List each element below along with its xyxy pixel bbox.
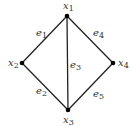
- edge-e4: [67, 16, 113, 63]
- vertex-label-x3: x3: [63, 114, 74, 126]
- edge-label-e1: e1: [36, 27, 47, 40]
- graph-canvas: e1e2e3e4e5x1x2x3x4: [0, 0, 133, 126]
- edge-e3: [67, 16, 68, 110]
- vertex-label-x4: x4: [118, 57, 129, 70]
- vertex-x2: [20, 61, 25, 66]
- vertex-x1: [65, 14, 70, 19]
- edge-label-e5: e5: [93, 88, 104, 101]
- vertex-label-subscript: 4: [124, 61, 129, 70]
- vertex-x3: [66, 108, 71, 113]
- edge-label-e3: e3: [70, 59, 81, 72]
- edge-label-e4: e4: [93, 27, 104, 40]
- edge-label-subscript: 2: [42, 89, 47, 98]
- edge-e2: [22, 63, 68, 110]
- vertex-label-x1: x1: [63, 0, 74, 13]
- vertex-label-subscript: 2: [14, 61, 19, 70]
- edge-label-subscript: 4: [99, 31, 104, 40]
- vertex-label-x2: x2: [8, 57, 19, 70]
- edge-e5: [68, 63, 113, 110]
- vertex-label-subscript: 3: [69, 118, 74, 126]
- graph-diagram: e1e2e3e4e5x1x2x3x4: [0, 0, 133, 126]
- edge-label-subscript: 3: [76, 63, 81, 72]
- edge-label-subscript: 5: [99, 92, 104, 101]
- vertex-label-subscript: 1: [69, 4, 74, 13]
- edge-label-subscript: 1: [42, 31, 47, 40]
- vertex-x4: [111, 61, 116, 66]
